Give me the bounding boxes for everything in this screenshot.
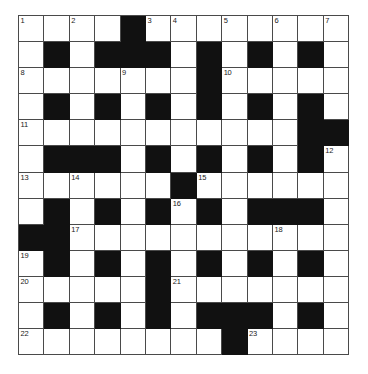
grid-letter-cell[interactable] (222, 120, 247, 146)
grid-letter-cell[interactable] (222, 251, 247, 277)
grid-letter-cell[interactable] (273, 68, 298, 94)
grid-letter-cell[interactable]: 5 (222, 16, 247, 42)
grid-letter-cell[interactable] (273, 120, 298, 146)
grid-letter-cell[interactable]: 7 (324, 16, 349, 42)
grid-letter-cell[interactable] (171, 146, 196, 172)
grid-letter-cell[interactable] (19, 42, 44, 68)
grid-letter-cell[interactable] (44, 16, 69, 42)
grid-letter-cell[interactable] (197, 120, 222, 146)
grid-letter-cell[interactable] (121, 277, 146, 303)
grid-letter-cell[interactable] (248, 120, 273, 146)
grid-letter-cell[interactable] (324, 329, 349, 355)
grid-letter-cell[interactable] (70, 251, 95, 277)
grid-letter-cell[interactable] (19, 94, 44, 120)
grid-letter-cell[interactable] (324, 199, 349, 225)
grid-letter-cell[interactable] (70, 120, 95, 146)
grid-letter-cell[interactable]: 17 (70, 225, 95, 251)
grid-letter-cell[interactable] (222, 225, 247, 251)
grid-letter-cell[interactable]: 22 (19, 329, 44, 355)
grid-letter-cell[interactable] (121, 329, 146, 355)
grid-letter-cell[interactable] (146, 120, 171, 146)
grid-letter-cell[interactable] (171, 120, 196, 146)
grid-letter-cell[interactable] (70, 199, 95, 225)
grid-letter-cell[interactable] (248, 277, 273, 303)
grid-letter-cell[interactable]: 8 (19, 68, 44, 94)
grid-letter-cell[interactable] (171, 251, 196, 277)
grid-letter-cell[interactable] (324, 251, 349, 277)
grid-letter-cell[interactable] (171, 303, 196, 329)
grid-letter-cell[interactable] (273, 94, 298, 120)
grid-letter-cell[interactable] (324, 277, 349, 303)
grid-letter-cell[interactable] (121, 225, 146, 251)
grid-letter-cell[interactable] (273, 173, 298, 199)
grid-letter-cell[interactable] (44, 173, 69, 199)
grid-letter-cell[interactable] (70, 303, 95, 329)
grid-letter-cell[interactable] (19, 146, 44, 172)
grid-letter-cell[interactable] (248, 16, 273, 42)
grid-letter-cell[interactable]: 10 (222, 68, 247, 94)
grid-letter-cell[interactable] (273, 303, 298, 329)
grid-letter-cell[interactable] (121, 251, 146, 277)
grid-letter-cell[interactable] (146, 329, 171, 355)
grid-letter-cell[interactable] (70, 42, 95, 68)
grid-letter-cell[interactable] (44, 277, 69, 303)
grid-letter-cell[interactable] (121, 303, 146, 329)
grid-letter-cell[interactable] (70, 68, 95, 94)
grid-letter-cell[interactable] (95, 277, 120, 303)
grid-letter-cell[interactable] (222, 173, 247, 199)
grid-letter-cell[interactable]: 3 (146, 16, 171, 42)
grid-letter-cell[interactable] (298, 225, 323, 251)
grid-letter-cell[interactable] (70, 329, 95, 355)
grid-letter-cell[interactable] (95, 120, 120, 146)
grid-letter-cell[interactable]: 1 (19, 16, 44, 42)
grid-letter-cell[interactable]: 12 (324, 146, 349, 172)
grid-letter-cell[interactable] (298, 277, 323, 303)
grid-letter-cell[interactable] (121, 173, 146, 199)
grid-letter-cell[interactable] (44, 120, 69, 146)
grid-letter-cell[interactable] (273, 277, 298, 303)
grid-letter-cell[interactable] (324, 42, 349, 68)
grid-letter-cell[interactable]: 14 (70, 173, 95, 199)
grid-letter-cell[interactable] (95, 173, 120, 199)
grid-letter-cell[interactable]: 20 (19, 277, 44, 303)
grid-letter-cell[interactable] (324, 303, 349, 329)
grid-letter-cell[interactable]: 2 (70, 16, 95, 42)
grid-letter-cell[interactable] (171, 225, 196, 251)
grid-letter-cell[interactable] (95, 329, 120, 355)
grid-letter-cell[interactable]: 9 (121, 68, 146, 94)
grid-letter-cell[interactable]: 19 (19, 251, 44, 277)
grid-letter-cell[interactable] (298, 173, 323, 199)
grid-letter-cell[interactable]: 11 (19, 120, 44, 146)
grid-letter-cell[interactable]: 21 (171, 277, 196, 303)
grid-letter-cell[interactable] (121, 146, 146, 172)
grid-letter-cell[interactable] (248, 173, 273, 199)
grid-letter-cell[interactable] (121, 120, 146, 146)
grid-letter-cell[interactable] (171, 94, 196, 120)
grid-letter-cell[interactable] (95, 16, 120, 42)
grid-letter-cell[interactable]: 15 (197, 173, 222, 199)
grid-letter-cell[interactable] (44, 68, 69, 94)
grid-letter-cell[interactable] (324, 68, 349, 94)
grid-letter-cell[interactable] (324, 173, 349, 199)
grid-letter-cell[interactable] (95, 225, 120, 251)
grid-letter-cell[interactable] (324, 225, 349, 251)
grid-letter-cell[interactable]: 18 (273, 225, 298, 251)
grid-letter-cell[interactable] (273, 329, 298, 355)
grid-letter-cell[interactable] (298, 16, 323, 42)
grid-letter-cell[interactable] (222, 94, 247, 120)
grid-letter-cell[interactable] (197, 277, 222, 303)
grid-letter-cell[interactable] (222, 42, 247, 68)
grid-letter-cell[interactable] (95, 68, 120, 94)
grid-letter-cell[interactable] (19, 303, 44, 329)
crossword-grid[interactable]: 1234567891011121314151617181920212223 (18, 15, 349, 355)
grid-letter-cell[interactable] (273, 42, 298, 68)
grid-letter-cell[interactable] (197, 329, 222, 355)
grid-letter-cell[interactable] (70, 277, 95, 303)
grid-letter-cell[interactable] (171, 42, 196, 68)
grid-letter-cell[interactable] (146, 225, 171, 251)
grid-letter-cell[interactable]: 23 (248, 329, 273, 355)
grid-letter-cell[interactable] (70, 94, 95, 120)
grid-letter-cell[interactable]: 16 (171, 199, 196, 225)
grid-letter-cell[interactable] (273, 146, 298, 172)
grid-letter-cell[interactable] (222, 146, 247, 172)
